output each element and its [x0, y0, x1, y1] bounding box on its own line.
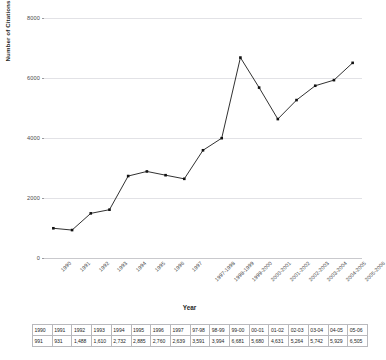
table-value-cell: 5,264 — [289, 336, 309, 347]
data-point-marker — [239, 56, 242, 59]
data-point-marker — [277, 118, 280, 121]
table-row-values: 9919311,4881,6102,7322,8852,7602,6393,59… — [33, 336, 368, 347]
y-tick-label: 0 — [10, 255, 40, 261]
x-tick-label: 1991 — [79, 260, 92, 273]
table-value-cell: 4,631 — [269, 336, 289, 347]
table-value-cell: 5,680 — [249, 336, 269, 347]
y-tick-mark — [42, 198, 44, 199]
y-tick-label: 4000 — [10, 135, 40, 141]
table-value-cell: 2,760 — [151, 336, 171, 347]
table-header-cell: 1992 — [72, 325, 92, 336]
series-line — [53, 58, 352, 231]
table-header-cell: 1991 — [52, 325, 72, 336]
data-table-container: 1990199119921993199419951996199797-9898-… — [32, 324, 368, 347]
y-tick-label: 2000 — [10, 195, 40, 201]
table-value-cell: 931 — [52, 336, 72, 347]
table-header-cell: 1996 — [151, 325, 171, 336]
table-header-cell: 01-02 — [269, 325, 289, 336]
table-header-cell: 02-03 — [289, 325, 309, 336]
data-point-marker — [295, 99, 298, 102]
x-axis-title: Year — [0, 304, 379, 311]
y-tick-mark — [42, 258, 44, 259]
data-point-marker — [71, 229, 74, 232]
table-header-cell: 97-98 — [190, 325, 210, 336]
data-point-marker — [202, 149, 205, 152]
data-point-marker — [258, 86, 261, 89]
x-tick-label: 1995 — [153, 260, 166, 273]
table-header-cell: 1994 — [111, 325, 131, 336]
x-tick-label: 1994 — [135, 260, 148, 273]
table-header-cell: 04-05 — [328, 325, 348, 336]
table-value-cell: 2,732 — [111, 336, 131, 347]
data-point-marker — [164, 174, 167, 177]
table-row-headers: 1990199119921993199419951996199797-9898-… — [33, 325, 368, 336]
data-point-marker — [108, 208, 111, 211]
table-header-cell: 99-00 — [230, 325, 250, 336]
table-value-cell: 2,885 — [131, 336, 151, 347]
data-point-marker — [183, 178, 186, 181]
y-tick-mark — [42, 138, 44, 139]
table-header-cell: 1993 — [92, 325, 112, 336]
x-tick-label: 1992 — [97, 260, 110, 273]
table-value-cell: 5,929 — [328, 336, 348, 347]
data-point-marker — [89, 212, 92, 215]
data-table: 1990199119921993199419951996199797-9898-… — [32, 324, 368, 347]
data-point-marker — [52, 227, 55, 230]
table-header-cell: 1990 — [33, 325, 53, 336]
table-value-cell: 3,994 — [210, 336, 230, 347]
data-point-marker — [314, 84, 317, 87]
plot-area: Number of Citations 02000400060008000 19… — [0, 0, 379, 318]
table-header-cell: 1995 — [131, 325, 151, 336]
table-header-cell: 03-04 — [308, 325, 328, 336]
y-axis-tick-labels: 02000400060008000 — [8, 0, 40, 260]
table-value-cell: 1,610 — [92, 336, 112, 347]
table-header-cell: 98-99 — [210, 325, 230, 336]
table-value-cell: 2,639 — [170, 336, 190, 347]
table-header-cell: 00-01 — [249, 325, 269, 336]
x-tick-label: 1993 — [116, 260, 129, 273]
y-tick-mark — [42, 18, 44, 19]
y-tick-label: 8000 — [10, 15, 40, 21]
y-tick-mark — [42, 78, 44, 79]
table-value-cell: 3,591 — [190, 336, 210, 347]
data-point-marker — [127, 175, 130, 178]
table-value-cell: 6,681 — [230, 336, 250, 347]
x-tick-label: 1996 — [172, 260, 185, 273]
data-point-marker — [333, 79, 336, 82]
y-tick-label: 6000 — [10, 75, 40, 81]
data-point-marker — [220, 137, 223, 140]
series-citations — [44, 18, 362, 258]
table-value-cell: 5,742 — [308, 336, 328, 347]
table-value-cell: 991 — [33, 336, 53, 347]
x-axis-line — [44, 258, 362, 259]
x-axis-tick-labels: 199019911992199319941995199619971997-199… — [44, 260, 362, 306]
table-header-cell: 1997 — [170, 325, 190, 336]
table-value-cell: 6,505 — [348, 336, 368, 347]
x-tick-label: 1997 — [191, 260, 204, 273]
x-tick-label: 1990 — [60, 260, 73, 273]
table-header-cell: 05-06 — [348, 325, 368, 336]
table-value-cell: 1,488 — [72, 336, 92, 347]
data-point-marker — [351, 62, 354, 65]
data-point-marker — [146, 170, 149, 173]
